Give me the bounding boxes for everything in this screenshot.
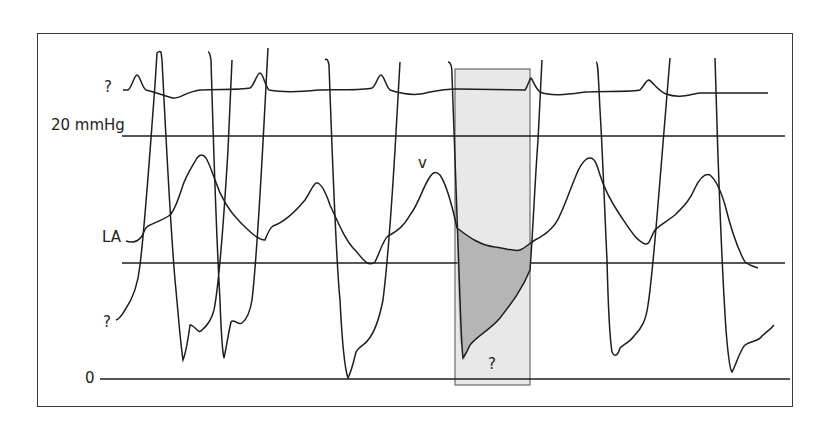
- la-trace-label: LA: [102, 230, 121, 245]
- lv-trace-label: ?: [103, 315, 111, 330]
- lv-pressure-trace: [116, 48, 774, 378]
- v-wave-label: v: [418, 156, 427, 171]
- ecg-trace: [123, 73, 768, 98]
- highlight-box-label: ?: [488, 357, 496, 372]
- ecg-trace-label: ?: [104, 80, 112, 95]
- scale-20-mmhg-label: 20 mmHg: [51, 118, 125, 133]
- zero-line-label: 0: [85, 371, 95, 386]
- pressure-plot: [0, 0, 830, 426]
